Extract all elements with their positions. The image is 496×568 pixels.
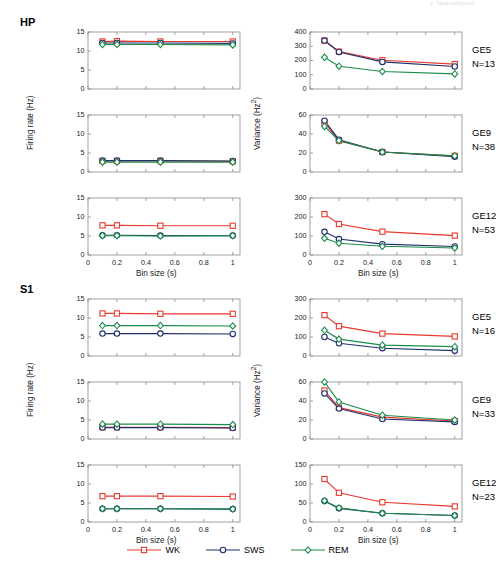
row-label-subject: GE9	[472, 127, 491, 138]
legend-item-rem[interactable]: REM	[291, 544, 349, 556]
svg-text:1: 1	[231, 525, 235, 534]
legend-label: REM	[329, 545, 349, 555]
svg-text:5: 5	[81, 148, 85, 157]
svg-text:0.4: 0.4	[363, 258, 373, 267]
svg-text:300: 300	[295, 294, 307, 303]
row-label-s1-ge5: GE5N=16	[472, 311, 495, 336]
svg-text:0: 0	[303, 517, 307, 526]
svg-text:5: 5	[81, 332, 85, 341]
y-axis-title-variance: Variance (Hz2)	[250, 364, 262, 417]
svg-text:0: 0	[81, 84, 85, 93]
legend-item-sws[interactable]: SWS	[206, 544, 265, 556]
chart-panel-s1-ge5-var: 0100200300	[296, 297, 476, 382]
svg-text:15: 15	[77, 27, 85, 36]
svg-text:100: 100	[295, 479, 307, 488]
legend-item-wk[interactable]: WK	[127, 544, 180, 556]
svg-text:0: 0	[81, 434, 85, 443]
svg-text:40: 40	[299, 129, 307, 138]
row-label-s1-ge9: GE9N=33	[472, 394, 495, 419]
svg-text:0: 0	[81, 351, 85, 360]
svg-text:0.2: 0.2	[334, 525, 344, 534]
row-label-subject: GE5	[472, 311, 491, 322]
row-label-hp-ge5: GE5N=13	[472, 44, 495, 69]
svg-text:400: 400	[295, 27, 307, 36]
svg-text:10: 10	[77, 129, 85, 138]
row-label-count: N=38	[472, 141, 495, 152]
svg-text:60: 60	[299, 377, 307, 386]
row-label-subject: GE12	[472, 210, 496, 221]
y-axis-title-variance: Variance (Hz2)	[250, 97, 262, 150]
svg-text:0.8: 0.8	[199, 525, 209, 534]
svg-text:10: 10	[77, 46, 85, 55]
row-label-subject: GE12	[472, 477, 496, 488]
svg-text:0: 0	[81, 250, 85, 259]
svg-text:0.6: 0.6	[392, 525, 402, 534]
svg-text:0.8: 0.8	[199, 258, 209, 267]
row-label-hp-ge12: GE12N=53	[472, 210, 496, 235]
running-header: J. Neurophysiol.	[300, 0, 476, 9]
chart-panel-hp-ge5-rate: 051015	[74, 30, 254, 115]
row-label-count: N=23	[472, 491, 496, 502]
block-label-s1: S1	[20, 283, 33, 295]
svg-text:0: 0	[303, 84, 307, 93]
svg-text:0.6: 0.6	[170, 525, 180, 534]
svg-text:5: 5	[81, 65, 85, 74]
chart-panel-s1-ge5-rate: 051015	[74, 297, 254, 382]
svg-text:15: 15	[77, 294, 85, 303]
row-label-count: N=33	[472, 408, 495, 419]
svg-text:20: 20	[299, 148, 307, 157]
svg-text:50: 50	[299, 498, 307, 507]
svg-text:15: 15	[77, 193, 85, 202]
diamond-marker-icon	[291, 544, 325, 556]
y-axis-title-firing-rate: Firing rate (Hz)	[26, 362, 35, 417]
row-label-count: N=53	[472, 224, 496, 235]
svg-text:0.2: 0.2	[334, 258, 344, 267]
row-label-count: N=16	[472, 325, 495, 336]
svg-text:5: 5	[81, 231, 85, 240]
svg-text:0.2: 0.2	[112, 525, 122, 534]
svg-text:0: 0	[303, 434, 307, 443]
svg-text:0: 0	[308, 525, 312, 534]
row-label-s1-ge12: GE12N=23	[472, 477, 496, 502]
svg-text:0: 0	[81, 167, 85, 176]
svg-text:5: 5	[81, 415, 85, 424]
legend-label: WK	[165, 545, 180, 555]
circle-marker-icon	[206, 544, 240, 556]
svg-text:0: 0	[308, 258, 312, 267]
svg-text:0.8: 0.8	[421, 525, 431, 534]
svg-text:0: 0	[303, 250, 307, 259]
svg-text:0: 0	[86, 258, 90, 267]
row-label-count: N=13	[472, 58, 495, 69]
chart-panel-hp-ge9-var: 0204060	[296, 113, 476, 198]
chart-panel-hp-ge9-rate: 051015	[74, 113, 254, 198]
legend: WKSWSREM	[0, 540, 476, 560]
svg-text:0.8: 0.8	[421, 258, 431, 267]
svg-text:0: 0	[303, 167, 307, 176]
svg-text:200: 200	[295, 313, 307, 322]
svg-text:0.4: 0.4	[141, 258, 151, 267]
svg-text:0.6: 0.6	[170, 258, 180, 267]
svg-text:40: 40	[299, 396, 307, 405]
svg-text:0.2: 0.2	[112, 258, 122, 267]
svg-text:1: 1	[453, 258, 457, 267]
svg-text:100: 100	[295, 332, 307, 341]
square-marker-icon	[127, 544, 161, 556]
block-label-hp: HP	[20, 16, 35, 28]
y-axis-title-firing-rate: Firing rate (Hz)	[26, 95, 35, 150]
svg-text:1: 1	[453, 525, 457, 534]
svg-text:0: 0	[86, 525, 90, 534]
svg-text:150: 150	[295, 460, 307, 469]
svg-text:20: 20	[299, 415, 307, 424]
svg-text:0: 0	[81, 517, 85, 526]
svg-text:200: 200	[295, 55, 307, 64]
svg-text:10: 10	[77, 313, 85, 322]
svg-text:15: 15	[77, 377, 85, 386]
svg-text:300: 300	[295, 41, 307, 50]
svg-text:100: 100	[295, 231, 307, 240]
svg-text:200: 200	[295, 212, 307, 221]
row-label-hp-ge9: GE9N=38	[472, 127, 495, 152]
svg-text:1: 1	[231, 258, 235, 267]
svg-text:60: 60	[299, 110, 307, 119]
svg-text:0: 0	[303, 351, 307, 360]
row-label-subject: GE5	[472, 44, 491, 55]
